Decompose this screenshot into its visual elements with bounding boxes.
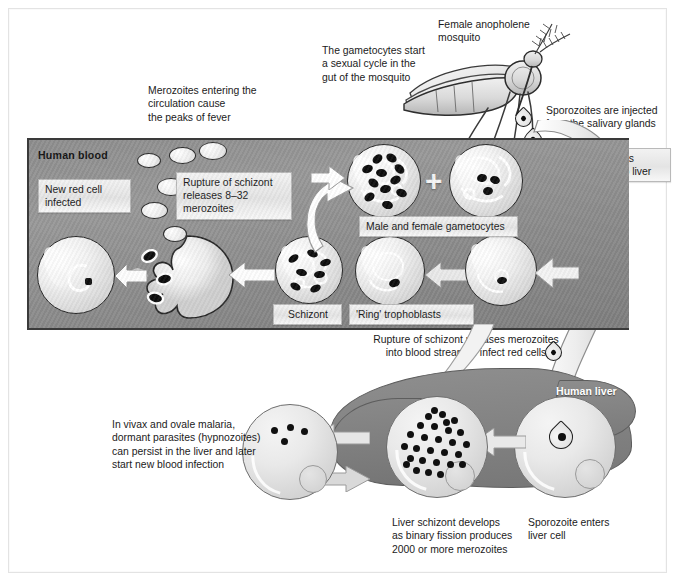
merozoite-dot [463,441,470,448]
label-male-female-gametocytes: Male and female gametocytes [359,216,518,237]
arrow-ring-to-schizont [229,262,275,288]
parasite-dot [85,278,92,285]
parasite-rod [393,162,407,175]
cell-ring-trophoblast [355,236,425,306]
parasite-rod [367,177,381,190]
merozoite-dot [425,469,432,476]
label-new-red-cell: New red cell infected [38,179,131,213]
merozoite-dot [425,413,432,420]
parasite-rod [388,278,401,289]
parasite-rod [142,249,157,262]
merozoite-dot [407,431,414,438]
arrow-early-to-ring [425,262,469,288]
parasite-rod [375,168,387,177]
merozoite-dot [439,411,446,418]
merozoite [137,153,161,168]
label-ring-trophoblasts: 'Ring' trophoblasts [349,304,474,325]
figure-canvas: The gametocytes start a sexual cycle in … [0,0,675,581]
merozoite [141,202,168,219]
annotation-vivax-ovale: In vivax and ovale malaria, dormant para… [112,418,308,472]
cell-liver-infected [514,396,616,498]
gametocyte-squiggles [348,145,420,217]
parasite-rod [295,268,307,277]
parasite-rod [385,152,399,164]
parasite-rod [319,257,332,267]
parasite-rod [157,274,172,285]
merozoite-dot [435,436,442,443]
merozoite-dot [455,451,462,458]
schizont-squiggles [276,237,342,303]
merozoite-dot [441,449,448,456]
annotation-merozoites-fever: Merozoites entering the circulation caus… [148,84,318,124]
plus-symbol: + [425,166,443,196]
annotation-liver-schizont: Liver schizont develops as binary fissio… [392,516,582,556]
ring-trophozoite-shape [38,237,114,313]
parasite-rod [476,173,488,183]
parasite-rod [287,252,300,264]
human-blood-band: Human blood Rupture of schizont releases… [27,138,629,330]
label-rupture-schizont: Rupture of schizont releases 8–32 merozo… [176,172,292,220]
merozoite [163,226,187,242]
arrow-schizont-to-gametocytes [297,158,367,254]
merozoite-dot [401,443,408,450]
parasite-rod [132,270,146,280]
parasite-rod [496,276,507,285]
parasite-rod [361,163,374,174]
parasite-rod [309,283,322,294]
merozoite-dot [437,471,444,478]
arrow-into-male-gametocyte [311,166,345,190]
label-schizont: Schizont [273,304,342,325]
merozoite-dot [445,427,452,434]
parasite-rod [148,293,163,304]
merozoite [157,178,185,196]
merozoite-dot [447,461,454,468]
merozoite-dot [431,423,438,430]
merozoite-dot [449,439,456,446]
cell-female-gametocyte [449,144,523,218]
parasite-rod [289,281,302,293]
ring-form [494,269,509,284]
merozoite-dot [413,467,420,474]
merozoite-dot [431,407,438,414]
merozoite-dot [421,434,428,441]
merozoite-dot [417,422,424,429]
arrow-to-new-red-cell [115,264,147,288]
parasite-rod [489,175,501,186]
parasite-rod [389,174,402,186]
cell-new-red-cell [37,236,115,314]
parasite-rod [381,200,394,210]
parasite-rod [306,248,319,259]
parasite-rod [363,191,377,204]
gametocyte-squiggles [450,145,522,217]
label-human-blood: Human blood [38,149,108,161]
merozoite-dot [403,461,410,468]
cell-early-ring [465,234,537,306]
merozoite-dot [451,417,458,424]
parasite-rod [314,270,326,278]
merozoite-dot [433,459,440,466]
merozoite-dot [427,447,434,454]
merozoite-dot [443,419,450,426]
parasite-rod [371,152,385,165]
merozoite-dot [413,445,420,452]
merozoite [199,142,227,160]
merozoite-dot [459,461,466,468]
merozoite-dot [419,457,426,464]
cell-rupturing-schizont [127,232,237,322]
cell-male-gametocyte [347,144,421,218]
ring-form [372,252,403,281]
cell-schizont [275,236,343,304]
parasite-rod [379,184,391,194]
merozoite [169,147,196,164]
parasite-rod [395,187,408,198]
merozoite-dot [457,429,464,436]
parasite-rod [483,186,494,195]
arrow-sporozoite-into-blood [535,258,579,288]
cell-liver-schizont [386,396,488,498]
